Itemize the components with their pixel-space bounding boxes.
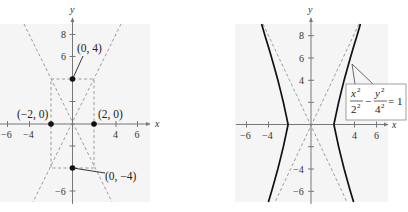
y-tick-label: 4 [299, 75, 304, 86]
x-tick-label: −6 [240, 130, 251, 141]
right-graph: x y −6 −4 4 6 8 6 4 −4 −6 [235, 4, 406, 204]
label-0-neg4: (0, −4) [105, 170, 137, 183]
x-tick-label: 6 [374, 130, 379, 141]
y-tick-label: 6 [299, 53, 304, 64]
y-tick-label: −4 [293, 164, 304, 175]
point-0-4 [70, 76, 76, 82]
eq-equals: = 1 [388, 95, 402, 107]
x-tick-label: 4 [113, 129, 118, 140]
eq-term1-den-exp: 2 [357, 102, 361, 110]
y-tick-label: −6 [55, 186, 66, 197]
y-tick-label: 8 [61, 29, 66, 40]
label-2-0: (2, 0) [98, 108, 123, 121]
y-tick-label: −6 [293, 186, 304, 197]
label-0-4: (0, 4) [77, 42, 102, 55]
label-neg2-0: (−2, 0) [17, 108, 49, 121]
x-tick-label: −4 [262, 130, 273, 141]
eq-term2-num: y [374, 87, 380, 99]
eq-term2-num-exp: 2 [381, 86, 385, 94]
x-tick-label: 6 [135, 129, 140, 140]
eq-term1-den: 2 [351, 103, 357, 115]
x-tick-label: 4 [352, 130, 357, 141]
figure: x y −6 −4 4 6 8 6 −6 [0, 0, 408, 212]
point-2-0 [91, 121, 97, 127]
eq-term1-num: x [350, 87, 356, 99]
y-axis-label: y [69, 4, 75, 15]
y-tick-label: 6 [61, 51, 66, 62]
y-tick-label: 8 [299, 30, 304, 41]
point-neg2-0 [48, 121, 54, 127]
y-axis-label: y [307, 4, 313, 15]
eq-term2-den-exp: 2 [381, 102, 385, 110]
x-tick-label: −4 [23, 129, 34, 140]
eq-term1-num-exp: 2 [357, 86, 361, 94]
x-tick-label: −6 [1, 129, 12, 140]
left-graph: x y −6 −4 4 6 8 6 −6 [0, 4, 160, 204]
eq-minus: − [365, 95, 371, 107]
x-axis-label: x [154, 118, 160, 129]
